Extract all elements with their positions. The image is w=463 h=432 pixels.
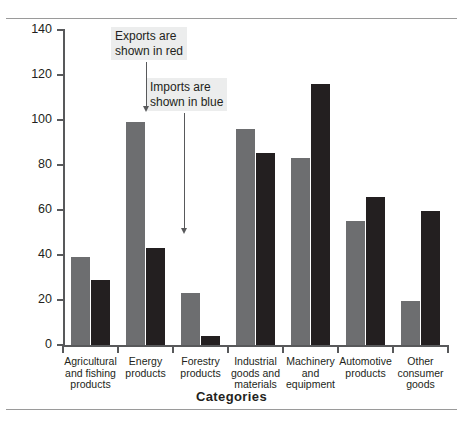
bar-imports-6 bbox=[366, 197, 385, 346]
bar-exports-2 bbox=[126, 122, 145, 345]
y-axis-tick-label: 140 bbox=[12, 23, 52, 36]
y-axis-tick-label: 20 bbox=[12, 293, 52, 306]
bar-exports-3 bbox=[181, 293, 200, 345]
imports-annotation-arrow-head bbox=[181, 228, 187, 234]
bar-exports-5 bbox=[291, 158, 310, 345]
x-axis-tick bbox=[282, 346, 284, 353]
y-axis-tick bbox=[57, 299, 64, 301]
bar-imports-5 bbox=[311, 84, 330, 345]
y-axis-tick-label: 80 bbox=[12, 158, 52, 171]
bar-exports-7 bbox=[401, 301, 420, 345]
y-axis-tick-label: 60 bbox=[12, 203, 52, 216]
bar-imports-3 bbox=[201, 336, 220, 345]
imports-annotation: Imports are shown in blue bbox=[146, 78, 227, 111]
x-axis-tick bbox=[62, 346, 64, 353]
y-axis-tick bbox=[57, 209, 64, 211]
y-axis-tick-label: 100 bbox=[12, 113, 52, 126]
x-axis-tick bbox=[337, 346, 339, 353]
y-axis-tick bbox=[57, 164, 64, 166]
y-axis-tick-label: 0 bbox=[12, 338, 52, 351]
x-axis-tick bbox=[227, 346, 229, 353]
y-axis-tick bbox=[57, 29, 64, 31]
y-axis-tick bbox=[57, 119, 64, 121]
x-axis-tick bbox=[392, 346, 394, 353]
y-axis-tick-label: 120 bbox=[12, 68, 52, 81]
y-axis-tick bbox=[57, 74, 64, 76]
bar-exports-4 bbox=[236, 129, 255, 345]
x-axis-line bbox=[63, 345, 449, 347]
y-axis-tick-label: 40 bbox=[12, 248, 52, 261]
x-axis-tick bbox=[172, 346, 174, 353]
bar-exports-6 bbox=[346, 221, 365, 345]
x-axis-tick bbox=[117, 346, 119, 353]
x-axis-tick bbox=[447, 346, 449, 353]
x-axis-category-label: Otherconsumergoods bbox=[391, 356, 450, 391]
x-axis-category-label: Agriculturaland fishingproducts bbox=[61, 356, 120, 391]
exports-annotation-arrow-head bbox=[143, 106, 149, 112]
bar-imports-2 bbox=[146, 248, 165, 345]
exports-annotation: Exports are shown in red bbox=[111, 27, 187, 60]
bar-exports-1 bbox=[71, 257, 90, 345]
x-axis-category-label: Automotiveproducts bbox=[336, 356, 395, 379]
bar-chart-figure: $ Billions 020406080100120140 Agricultur… bbox=[0, 0, 463, 432]
x-axis-category-label: Forestryproducts bbox=[171, 356, 230, 379]
y-axis-tick bbox=[57, 254, 64, 256]
bar-imports-4 bbox=[256, 153, 275, 345]
exports-annotation-arrow-line bbox=[146, 62, 147, 108]
bar-imports-7 bbox=[421, 211, 440, 345]
top-divider-rule bbox=[6, 18, 457, 19]
imports-annotation-arrow-line bbox=[184, 113, 185, 230]
x-axis-category-label: Machineryandequipment bbox=[281, 356, 340, 391]
x-axis-title: Categories bbox=[0, 389, 463, 404]
x-axis-category-label: Industrialgoods andmaterials bbox=[226, 356, 285, 391]
bar-imports-1 bbox=[91, 280, 110, 345]
bottom-divider-rule bbox=[6, 409, 457, 410]
x-axis-category-label: Energyproducts bbox=[116, 356, 175, 379]
